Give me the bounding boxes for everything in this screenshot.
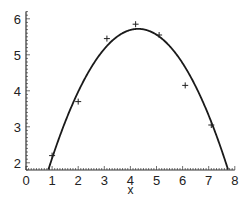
x-tick-label: 7 xyxy=(205,173,212,188)
x-tick-label: 1 xyxy=(48,173,55,188)
chart-figure: 01234567823456 x xyxy=(0,0,244,198)
x-tick-label: 3 xyxy=(101,173,108,188)
y-tick-label: 4 xyxy=(14,84,21,99)
y-tick-label: 3 xyxy=(14,120,21,135)
data-points xyxy=(49,21,214,158)
x-tick-label: 0 xyxy=(22,173,29,188)
x-tick-label: 5 xyxy=(153,173,160,188)
tick-labels: 01234567823456 xyxy=(14,12,239,188)
y-tick-label: 6 xyxy=(14,12,21,27)
y-tick-label: 5 xyxy=(14,48,21,63)
axes xyxy=(26,12,235,170)
fit-curve xyxy=(48,29,228,170)
x-tick-label: 6 xyxy=(179,173,186,188)
data-point-marker xyxy=(133,21,139,27)
data-point-marker xyxy=(75,99,81,105)
x-tick-label: 2 xyxy=(75,173,82,188)
data-point-marker xyxy=(104,36,110,42)
x-axis-label: x xyxy=(127,183,133,197)
x-tick-label: 8 xyxy=(231,173,238,188)
data-point-marker xyxy=(182,82,188,88)
ticks xyxy=(26,12,235,170)
y-tick-label: 2 xyxy=(14,156,21,171)
